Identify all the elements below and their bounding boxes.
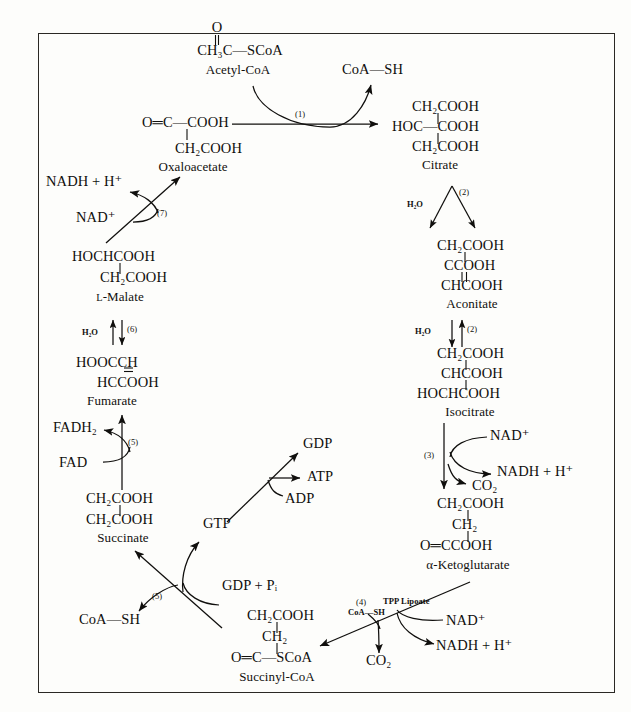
step-6-number: (5) <box>128 438 138 447</box>
fumarate-line1: HOOCCH <box>76 355 138 370</box>
acetyl-coa-label: Acetyl-CoA <box>206 63 271 77</box>
l-malate-label: L-Malate <box>96 290 144 304</box>
nadh-h-step8-label: NADH + H⁺ <box>46 174 122 189</box>
aconitate-line2: CCOOH <box>444 258 495 273</box>
h2o-step7-label: H₂O <box>82 328 98 337</box>
step-2a-number: (2) <box>459 188 469 197</box>
nadh-h-step4-label: NADH + H⁺ <box>436 638 512 653</box>
acetyl-coa-formula: CH₃C—SCoA <box>197 43 283 58</box>
step-4-number: (4) <box>356 598 366 607</box>
isocitrate-line3: HOCHCOOH <box>417 386 500 401</box>
oxaloacetate-line2: CH₂COOH <box>175 141 242 156</box>
alpha-kg-line1: CH₂COOH <box>437 496 504 511</box>
gdp-pi-label: GDP + Pᵢ <box>222 578 277 593</box>
isocitrate-line2: CHCOOH <box>441 366 503 381</box>
alpha-kg-label: α-Ketoglutarate <box>426 558 509 572</box>
succinyl-coa-line1: CH₂COOH <box>247 608 314 623</box>
gdp-label: GDP <box>303 436 332 451</box>
step-2b-number: (2) <box>467 325 477 334</box>
h2o-step2a-label: H₂O <box>407 200 423 209</box>
nad-plus-step3-label: NAD⁺ <box>490 428 529 443</box>
l-malate-line1: HOCHCOOH <box>72 249 155 264</box>
adp-label: ADP <box>285 491 314 506</box>
l-malate-name-rest: -Malate <box>103 289 144 304</box>
alpha-kg-line3: O═CCOOH <box>420 538 492 553</box>
succinate-line2: CH₂COOH <box>86 512 153 527</box>
h2o-step2b-label: H₂O <box>415 327 431 336</box>
aconitate-label: Aconitate <box>446 297 497 311</box>
fumarate-label: Fumarate <box>87 394 137 408</box>
step-3-number: (3) <box>424 451 434 460</box>
succinyl-coa-label: Succinyl-CoA <box>239 670 315 684</box>
coa-sh-succinyl-label: CoA—SH <box>79 612 140 627</box>
succinyl-coa-line2: CH₂ <box>262 629 288 644</box>
aconitate-line3: CHCOOH <box>441 278 503 293</box>
nad-plus-step4-label: NAD⁺ <box>446 613 485 628</box>
co2-step4-label: CO₂ <box>366 653 392 668</box>
acetyl-coa-carbonyl-o: O <box>212 20 223 35</box>
coa-sh-citrate-label: CoA—SH <box>342 62 403 77</box>
step-5-number: (5) <box>152 592 162 601</box>
fumarate-line2: HCCOOH <box>97 375 159 390</box>
fadh2-label: FADH₂ <box>53 420 97 435</box>
step-7-number: (6) <box>127 325 137 334</box>
step-1-number: (1) <box>295 110 305 119</box>
fad-label: FAD <box>59 455 87 470</box>
l-malate-line2: CH₂COOH <box>100 270 167 285</box>
coa-sh-step4-label: CoA—SH <box>348 608 385 617</box>
nadh-h-step3-label: NADH + H⁺ <box>497 464 573 479</box>
aconitate-line1: CH₂COOH <box>437 238 504 253</box>
succinate-label: Succinate <box>97 531 148 545</box>
succinyl-coa-line3: O═C—SCoA <box>231 650 312 665</box>
co2-step3-label: CO₂ <box>472 478 498 493</box>
citrate-line1: CH₂COOH <box>412 99 479 114</box>
isocitrate-label: Isocitrate <box>445 405 494 419</box>
citrate-line3: CH₂COOH <box>412 139 479 154</box>
nad-plus-step8-label: NAD⁺ <box>76 210 115 225</box>
atp-label: ATP <box>307 469 333 484</box>
succinate-line1: CH₂COOH <box>86 491 153 506</box>
isocitrate-line1: CH₂COOH <box>437 346 504 361</box>
step-8-number: (7) <box>157 209 167 218</box>
gtp-label: GTP <box>203 516 231 531</box>
tpp-lipoate-label: TPP Lipoate <box>383 597 430 606</box>
alpha-kg-line2: CH₂ <box>452 517 478 532</box>
citrate-label: Citrate <box>422 158 458 172</box>
citrate-line2: HOC—COOH <box>392 119 479 134</box>
tca-cycle-diagram: O CH₃C—SCoA Acetyl-CoA CoA—SH (1) O═C—CO… <box>0 0 631 712</box>
oxaloacetate-label: Oxaloacetate <box>158 160 227 174</box>
oxaloacetate-line1: O═C—COOH <box>142 115 229 130</box>
